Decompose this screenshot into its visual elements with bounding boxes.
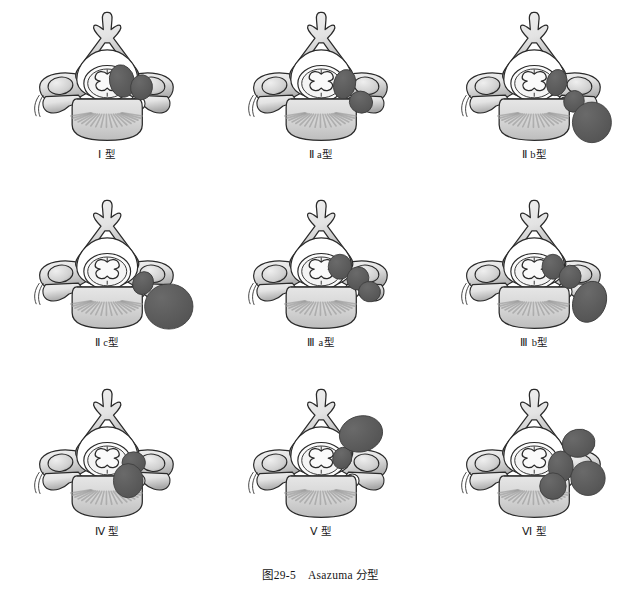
tumor-lobe <box>573 102 612 143</box>
vertebra-diagram-type-2a <box>214 0 428 152</box>
vertebra-diagram-type-5 <box>214 377 428 529</box>
cervical-vertebra <box>248 389 387 517</box>
tumor-lobe <box>540 473 567 500</box>
spinal-cord <box>84 254 131 290</box>
vertebra-diagram-type-1 <box>0 0 214 152</box>
panel-label-type-2a: Ⅱ a型 <box>309 146 333 161</box>
vertebra-diagram-type-4 <box>0 377 214 529</box>
panel-label-type-2b: Ⅱ b型 <box>522 146 546 161</box>
panel-label-type-6: Ⅵ 型 <box>522 523 546 538</box>
panel-type-5: Ⅴ 型 <box>214 377 428 565</box>
vertebra-diagram-type-2b <box>427 0 641 152</box>
panel-type-1: Ⅰ 型 <box>0 0 214 188</box>
figure-caption-title: Asazuma 分型 <box>308 569 379 581</box>
panel-type-2a: Ⅱ a型 <box>214 0 428 188</box>
panel-label-type-5: Ⅴ 型 <box>310 523 332 538</box>
panel-label-type-2c: Ⅱ c型 <box>95 334 119 349</box>
figure-caption-number: 图29-5 <box>262 569 296 581</box>
vertebra-diagram-type-6 <box>427 377 641 529</box>
panel-label-type-3a: Ⅲ a型 <box>307 334 334 349</box>
vertebra-diagram-type-3a <box>214 188 428 340</box>
panel-type-6: Ⅵ 型 <box>427 377 641 565</box>
panel-label-type-4: Ⅳ 型 <box>95 523 119 538</box>
tumor-lobe <box>113 463 143 497</box>
cervical-vertebra <box>248 12 387 140</box>
cervical-vertebra <box>35 389 174 517</box>
vertebra-diagram-type-3b <box>427 188 641 340</box>
cervical-vertebra <box>248 201 387 329</box>
panel-type-4: Ⅳ 型 <box>0 377 214 565</box>
figure-caption: 图29-5Asazuma 分型 <box>0 566 641 582</box>
panel-type-3a: Ⅲ a型 <box>214 188 428 376</box>
vertebra-diagram-type-2c <box>0 188 214 340</box>
panel-label-type-1: Ⅰ 型 <box>98 146 115 161</box>
tumor-lobe <box>571 461 605 495</box>
asazuma-classification-figure: Ⅰ 型 <box>0 0 641 565</box>
panel-type-2b: Ⅱ b型 <box>427 0 641 188</box>
panel-type-3b: Ⅲ b型 <box>427 188 641 376</box>
cervical-vertebra <box>35 12 174 140</box>
panel-label-type-3b: Ⅲ b型 <box>520 334 547 349</box>
tumor-lobe <box>145 284 193 329</box>
panel-type-2c: Ⅱ c型 <box>0 188 214 376</box>
